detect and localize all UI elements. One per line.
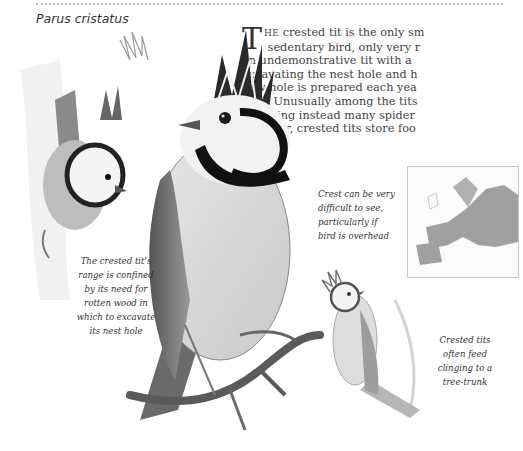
caption-range: The crested tit's range is confined by i… [62, 254, 170, 338]
europe-map-icon [408, 167, 518, 277]
main-bird-illustration [130, 30, 320, 430]
caption-trunk: Crested tits often feed clinging to a tr… [430, 333, 500, 389]
small-bird-illustration [322, 270, 420, 418]
caption-crest: Crest can be very difficult to see, part… [318, 187, 408, 243]
range-map [407, 166, 519, 278]
